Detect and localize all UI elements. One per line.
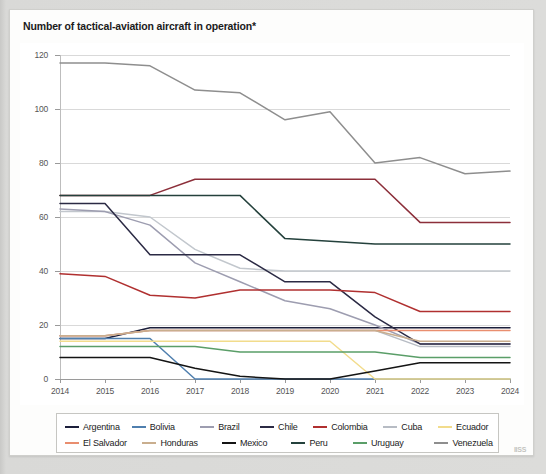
- legend-item-mexico[interactable]: Mexico: [222, 438, 292, 448]
- legend-swatch-icon: [313, 426, 327, 428]
- legend-swatch-icon: [142, 442, 156, 444]
- legend-swatch-icon: [438, 426, 452, 428]
- legend-swatch-icon: [260, 426, 274, 428]
- screenshot-page: Number of tactical-aviation aircraft in …: [0, 0, 546, 474]
- legend-swatch-icon: [200, 426, 214, 428]
- legend-item-brazil[interactable]: Brazil: [200, 422, 260, 432]
- legend-label: Honduras: [160, 438, 197, 448]
- legend-label: Ecuador: [456, 422, 488, 432]
- series-line-brazil-upper: [60, 179, 510, 222]
- legend-swatch-icon: [65, 442, 79, 444]
- legend-label: Chile: [278, 422, 298, 432]
- legend-item-argentina[interactable]: Argentina: [65, 422, 132, 432]
- publisher-logo: IISS: [514, 446, 526, 453]
- legend-swatch-icon: [353, 442, 367, 444]
- legend-label: El Salvador: [83, 438, 127, 448]
- series-line-uruguay: [60, 347, 510, 358]
- legend-swatch-icon: [222, 442, 236, 444]
- legend-row-1: ArgentinaBoliviaBrazilChileColombiaCubaE…: [65, 419, 498, 435]
- legend-item-el-salvador[interactable]: El Salvador: [65, 438, 142, 448]
- plot-area: 0204060801001202014201520162017201820192…: [20, 43, 524, 405]
- legend-swatch-icon: [291, 442, 305, 444]
- legend-label: Colombia: [331, 422, 367, 432]
- legend-label: Cuba: [401, 422, 422, 432]
- legend-item-venezuela[interactable]: Venezuela: [434, 438, 498, 448]
- series-line-honduras: [60, 330, 510, 341]
- series-line-cuba-upper: [60, 212, 510, 271]
- legend-swatch-icon: [65, 426, 79, 428]
- legend-item-chile[interactable]: Chile: [260, 422, 313, 432]
- legend-item-colombia[interactable]: Colombia: [313, 422, 383, 432]
- legend-label: Venezuela: [452, 438, 492, 448]
- legend-label: Bolivia: [150, 422, 175, 432]
- page-title: Number of tactical-aviation aircraft in …: [23, 20, 256, 32]
- legend-label: Argentina: [83, 422, 120, 432]
- line-chart: 0204060801001202014201520162017201820192…: [20, 43, 524, 405]
- legend-item-honduras[interactable]: Honduras: [142, 438, 221, 448]
- chart-card: Number of tactical-aviation aircraft in …: [9, 9, 534, 456]
- series-line-colombia: [60, 274, 510, 312]
- legend-row-2: El SalvadorHondurasMexicoPeruUruguayVene…: [65, 435, 498, 451]
- legend-label: Uruguay: [371, 438, 404, 448]
- legend-swatch-icon: [434, 442, 448, 444]
- legend-swatch-icon: [383, 426, 397, 428]
- legend-label: Brazil: [218, 422, 239, 432]
- legend-item-peru[interactable]: Peru: [291, 438, 353, 448]
- series-line-mexico: [60, 357, 510, 379]
- legend-item-uruguay[interactable]: Uruguay: [353, 438, 434, 448]
- series-line-peru: [60, 195, 510, 244]
- legend-item-ecuador[interactable]: Ecuador: [438, 422, 498, 432]
- legend-item-bolivia[interactable]: Bolivia: [132, 422, 200, 432]
- legend-label: Peru: [309, 438, 327, 448]
- legend-swatch-icon: [132, 426, 146, 428]
- legend-item-cuba[interactable]: Cuba: [383, 422, 438, 432]
- chart-series-layer: [20, 43, 524, 405]
- legend-label: Mexico: [240, 438, 267, 448]
- chart-legend: ArgentinaBoliviaBrazilChileColombiaCubaE…: [56, 413, 499, 453]
- series-line-venezuela: [60, 63, 510, 174]
- series-line-chile: [60, 204, 510, 344]
